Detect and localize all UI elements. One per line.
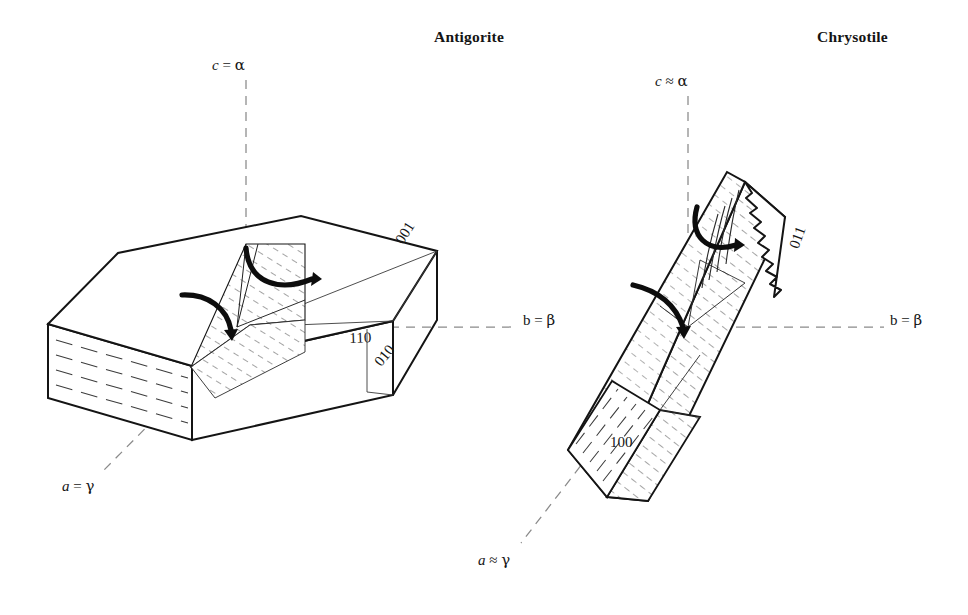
antigorite-c-axis-label: c = α: [212, 56, 245, 74]
chrysotile-miller-index-100: 100: [610, 434, 633, 451]
antigorite-c-axis-index: α: [235, 56, 245, 74]
antigorite-crystal: [48, 80, 516, 470]
chrysotile-a-axis-relation: ≈: [489, 552, 497, 568]
antigorite-a-axis-symbol: a: [62, 478, 70, 494]
chrysotile-b-axis-label: b = β: [890, 311, 922, 329]
chrysotile-a-axis-index: γ: [501, 551, 510, 569]
chrysotile-a-axis-label: a ≈ γ: [478, 551, 510, 569]
chrysotile-body: [568, 172, 785, 501]
antigorite-b-axis-symbol: b: [523, 312, 531, 328]
antigorite-miller-index-110: 110: [349, 329, 372, 347]
antigorite-b-axis-relation: =: [534, 312, 542, 328]
antigorite-a-axis-label: a = γ: [62, 477, 94, 495]
figure-canvas: Antigorite Chrysotile: [0, 0, 968, 615]
chrysotile-c-axis-index: α: [677, 72, 687, 90]
antigorite-a-axis-index: γ: [85, 477, 94, 495]
chrysotile-c-axis-symbol: c: [655, 73, 662, 89]
antigorite-c-axis-relation: =: [222, 57, 230, 73]
chrysotile-c-axis-label: c ≈ α: [655, 72, 688, 90]
antigorite-body: [48, 216, 437, 440]
antigorite-b-axis-label: b = β: [523, 311, 555, 329]
antigorite-a-axis-relation: =: [73, 478, 81, 494]
chrysotile-c-axis-relation: ≈: [665, 73, 673, 89]
chrysotile-b-axis-relation: =: [901, 312, 909, 328]
antigorite-c-axis-symbol: c: [212, 57, 219, 73]
antigorite-b-axis-index: β: [546, 311, 555, 329]
chrysotile-a-axis-symbol: a: [478, 552, 486, 568]
chrysotile-crystal: [521, 96, 884, 543]
chrysotile-b-axis-symbol: b: [890, 312, 898, 328]
chrysotile-b-axis-index: β: [913, 311, 922, 329]
crystal-drawings: [0, 0, 968, 615]
